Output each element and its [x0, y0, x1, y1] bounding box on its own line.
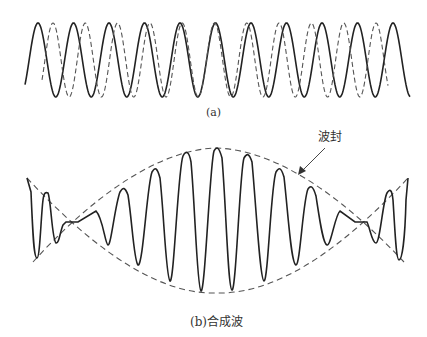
envelope-pointer-line: [301, 148, 325, 172]
figure-a: [25, 23, 410, 97]
envelope-label: 波封: [318, 127, 342, 144]
solid-wave-a: [25, 23, 410, 97]
envelope-lower: [27, 178, 408, 293]
wave-superposition-diagram: [0, 0, 427, 337]
caption-a: (a): [206, 106, 221, 119]
dashed-wave-a: [42, 23, 388, 97]
arrow-head-icon: [298, 166, 306, 175]
composite-wave: [27, 148, 408, 291]
caption-b: (b)合成波: [190, 312, 243, 329]
envelope-upper: [33, 148, 404, 262]
figure-b: [27, 148, 408, 293]
